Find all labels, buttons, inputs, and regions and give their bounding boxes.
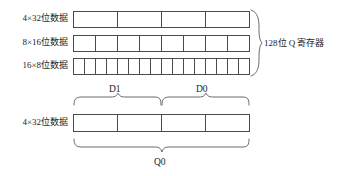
row-label-16x8: 16×8位数据 [4, 60, 68, 71]
register-cell [107, 59, 118, 74]
register-cell [184, 59, 195, 74]
register-layout-diagram: 4×32位数据 8×16位数据 16×8位数据 [0, 0, 339, 176]
register-cell [96, 59, 107, 74]
register-cell [118, 36, 140, 51]
register-row-16x8 [73, 58, 250, 75]
brace-label-d1: D1 [109, 84, 121, 95]
register-cell [195, 59, 206, 74]
register-cell [239, 59, 249, 74]
register-cell [118, 59, 129, 74]
register-cell [140, 59, 151, 74]
register-cell [74, 59, 85, 74]
brace-label-d0: D0 [196, 84, 208, 95]
register-cell [206, 12, 249, 27]
register-cell [151, 59, 162, 74]
brace-label-q0: Q0 [154, 157, 166, 168]
register-cell [206, 115, 249, 131]
register-row-4x32-bottom [73, 114, 250, 132]
row-label-4x32-bottom: 4×32位数据 [6, 117, 68, 128]
register-cell [96, 36, 118, 51]
register-cell [140, 36, 162, 51]
register-row-4x32-top [73, 11, 250, 28]
register-cell [206, 59, 217, 74]
q-register-brace-icon [251, 10, 262, 76]
register-cell [74, 12, 118, 27]
register-row-8x16 [73, 35, 250, 52]
register-cell [228, 36, 249, 51]
register-cell [173, 59, 184, 74]
register-cell [118, 115, 162, 131]
register-cell [162, 12, 206, 27]
register-cell [162, 115, 206, 131]
register-cell [74, 36, 96, 51]
register-cell [162, 36, 184, 51]
register-cell [129, 59, 140, 74]
register-cell [118, 12, 162, 27]
register-cell [228, 59, 239, 74]
register-cell [206, 36, 228, 51]
register-cell [184, 36, 206, 51]
brace-q0-icon [74, 139, 249, 152]
q-register-brace-label: 128位 Q 寄存器 [264, 38, 325, 49]
row-label-4x32-top: 4×32位数据 [6, 13, 68, 24]
register-cell [217, 59, 228, 74]
register-cell [85, 59, 96, 74]
register-cell [74, 115, 118, 131]
row-label-8x16: 8×16位数据 [6, 37, 68, 48]
register-cell [162, 59, 173, 74]
